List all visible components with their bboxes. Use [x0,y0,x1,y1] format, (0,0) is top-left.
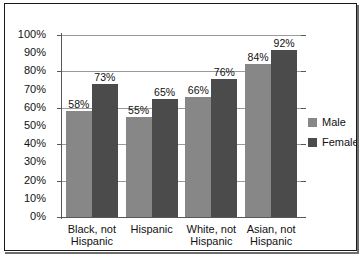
y-axis-tick-mark [57,181,62,182]
y-axis-tick-mark [57,71,62,72]
y-axis-tick-mark-right [301,108,306,109]
y-axis-tick-label: 10% [24,193,46,204]
bar-value-label: 73% [94,72,115,83]
y-axis-tick-mark [57,217,62,218]
bar-value-label: 76% [214,67,235,78]
bar-value-label: 55% [128,105,149,116]
y-axis-tick-mark-right [301,181,306,182]
category-label-line: Asian, not [231,223,311,235]
legend-swatch-icon [308,138,317,147]
y-axis-tick-mark-right [301,71,306,72]
y-axis-tick-label: 70% [24,84,46,95]
legend-label: Male [322,117,346,128]
y-axis-tick-mark-right [301,35,306,36]
bar-female[interactable]: 76% [211,79,237,217]
y-axis-tick-label: 0% [30,211,46,222]
frame-right-shadow [357,5,359,254]
y-axis-tick-label: 50% [24,120,46,131]
legend-swatch-icon [308,118,317,127]
bar-group: 58%73% [66,35,118,217]
chart-legend: MaleFemale [308,116,359,156]
bar-female[interactable]: 92% [271,50,297,217]
bar-male[interactable]: 58% [66,111,92,217]
x-axis-line [57,217,302,218]
y-axis-tick-label: 60% [24,102,46,113]
bar-value-label: 92% [274,38,295,49]
frame-bottom-shadow [5,252,359,254]
bar-female[interactable]: 65% [152,99,178,217]
chart-frame: 0%10%20%30%40%50%60%70%80%90%100% 58%73%… [4,3,357,251]
y-axis-tick-mark-right [301,217,306,218]
y-axis-tick-mark-right [301,144,306,145]
bar-value-label: 58% [68,99,89,110]
bar-female[interactable]: 73% [92,84,118,217]
bar-male[interactable]: 66% [185,97,211,217]
bar-value-label: 84% [248,52,269,63]
legend-item-female[interactable]: Female [308,136,359,148]
bar-male[interactable]: 55% [126,117,152,217]
bar-value-label: 65% [154,87,175,98]
y-axis-tick-label: 30% [24,156,46,167]
y-axis-tick-label: 80% [24,65,46,76]
bar-group: 55%65% [126,35,178,217]
category-label: Asian, notHispanic [231,223,311,247]
y-axis-tick-mark [57,144,62,145]
y-axis-tick-mark [57,108,62,109]
y-axis-tick-label: 100% [18,29,46,40]
legend-label: Female [322,137,359,148]
legend-item-male[interactable]: Male [308,116,359,128]
category-label-line: Hispanic [52,235,132,247]
bar-group: 66%76% [185,35,237,217]
y-axis-tick-label: 20% [24,175,46,186]
y-axis-tick-label: 40% [24,138,46,149]
plot-area: 58%73%55%65%66%76%84%92% [62,35,301,217]
bar-male[interactable]: 84% [245,64,271,217]
bar-value-label: 66% [188,85,209,96]
y-axis-tick-label: 90% [24,47,46,58]
category-label-line: Hispanic [231,235,311,247]
y-axis-tick-mark [57,35,62,36]
bar-group: 84%92% [245,35,297,217]
